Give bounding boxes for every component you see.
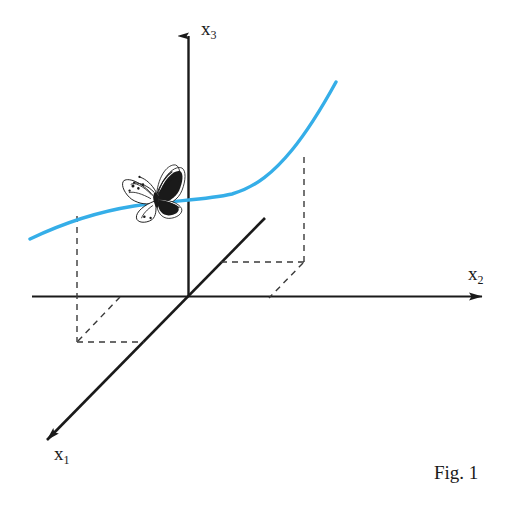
left-projection — [77, 216, 144, 342]
axis-label-x3: x3 — [201, 18, 217, 40]
solution-curve — [30, 82, 336, 239]
axis-label-x1-sub: 1 — [64, 453, 70, 467]
axis-label-x2-base: x — [468, 263, 478, 284]
figure-container: x3 x2 x1 Fig. 1 — [0, 0, 515, 508]
axis-label-x1: x1 — [54, 443, 70, 465]
axis-label-x3-base: x — [201, 18, 211, 39]
axis-label-x2: x2 — [468, 263, 484, 285]
axis-x1 — [47, 218, 265, 440]
butterfly-icon — [121, 164, 191, 225]
figure-canvas — [0, 0, 515, 508]
axis-label-x3-sub: 3 — [211, 28, 217, 42]
axis-label-x1-base: x — [54, 443, 64, 464]
axis-label-x2-sub: 2 — [478, 273, 484, 287]
figure-caption: Fig. 1 — [434, 462, 478, 484]
